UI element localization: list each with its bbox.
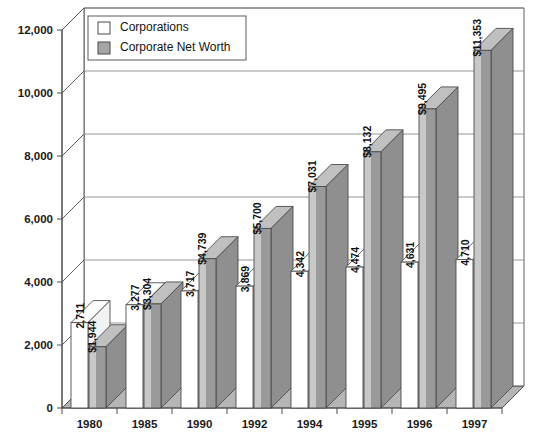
bar-front-face — [456, 260, 473, 408]
bar-side-face — [436, 87, 458, 408]
bar-value-label: $9,495 — [416, 83, 428, 115]
bar-value-label: 4,342 — [294, 251, 306, 277]
y-axis-tick-label: 0 — [47, 402, 53, 414]
y-axis-tick-label: 6,000 — [24, 213, 53, 225]
bar-value-label: 2,711 — [74, 303, 86, 329]
bar-value-label: $3,304 — [141, 278, 153, 310]
x-axis-tick-label: 1994 — [297, 418, 323, 430]
bar-front-face — [426, 109, 436, 408]
chart-canvas: 02,0004,0006,0008,00010,00012,0002,711$1… — [0, 0, 534, 440]
legend-label-corporate-net-worth: Corporate Net Worth — [120, 40, 231, 54]
bar-front-face — [316, 187, 326, 408]
bar-chart: 02,0004,0006,0008,00010,00012,0002,711$1… — [0, 0, 534, 440]
bar-value-label: 4,710 — [459, 239, 471, 265]
legend-swatch-corporations — [98, 22, 110, 34]
bar-value-label: $11,353 — [471, 19, 483, 57]
bar-value-label: 3,277 — [129, 284, 141, 310]
bar-value-label: $1,944 — [86, 320, 98, 352]
x-axis-tick-label: 1992 — [242, 418, 268, 430]
bar-front-light-strip — [254, 228, 261, 408]
bar-side-face — [491, 28, 513, 408]
bar-side-face — [326, 165, 348, 408]
legend-label-corporations: Corporations — [120, 20, 189, 34]
bar-front-light-strip — [364, 152, 371, 408]
bar-side-face — [161, 282, 183, 408]
bar-value-label: 4,474 — [349, 247, 361, 273]
bar-front-face — [181, 291, 198, 408]
x-axis-tick-label: 1995 — [352, 418, 378, 430]
bar-value-label: 3,717 — [184, 270, 196, 296]
bar-front-light-strip — [199, 259, 206, 408]
x-axis-tick-label: 1985 — [132, 418, 158, 430]
bar-value-label: $5,700 — [251, 202, 263, 234]
bar-front-face — [401, 262, 418, 408]
bar-front-light-strip — [89, 347, 96, 408]
bar-value-label: $7,031 — [306, 160, 318, 192]
bar-front-face — [206, 259, 216, 408]
bar-side-face — [216, 237, 238, 408]
x-axis-tick-label: 1980 — [77, 418, 103, 430]
y-axis-tick-label: 12,000 — [18, 24, 53, 36]
bar-side-face — [271, 206, 293, 408]
bar-front-face — [291, 271, 308, 408]
legend: CorporationsCorporate Net Worth — [88, 16, 246, 60]
y-axis-tick-label: 8,000 — [24, 150, 53, 162]
bar-front-light-strip — [474, 50, 481, 408]
bar-front-face — [346, 267, 363, 408]
bar-front-light-strip — [144, 304, 151, 408]
bar-group-1985: 3,277$3,304 — [126, 278, 183, 408]
x-axis-tick-label: 1997 — [462, 418, 488, 430]
bar-side-face — [381, 130, 403, 408]
legend-swatch-corporate-net-worth — [98, 42, 110, 54]
x-axis-tick-label: 1996 — [407, 418, 433, 430]
bar-front-light-strip — [419, 109, 426, 408]
y-axis-tick-label: 10,000 — [18, 87, 53, 99]
y-axis-tick-label: 2,000 — [24, 339, 53, 351]
bar-front-face — [236, 286, 253, 408]
y-axis-tick-label: 4,000 — [24, 276, 53, 288]
bar-front-face — [151, 304, 161, 408]
bar-value-label: 3,869 — [239, 266, 251, 292]
bar-front-light-strip — [309, 187, 316, 408]
x-axis-tick-label: 1990 — [187, 418, 213, 430]
bar-value-label: $8,132 — [361, 126, 373, 158]
bar-front-face — [261, 228, 271, 408]
bar-front-face — [126, 305, 143, 408]
bar-front-face — [481, 50, 491, 408]
bar-front-face — [96, 347, 106, 408]
bar-front-face — [371, 152, 381, 408]
bar-value-label: 4,631 — [404, 242, 416, 268]
bar-value-label: $4,739 — [196, 232, 208, 264]
